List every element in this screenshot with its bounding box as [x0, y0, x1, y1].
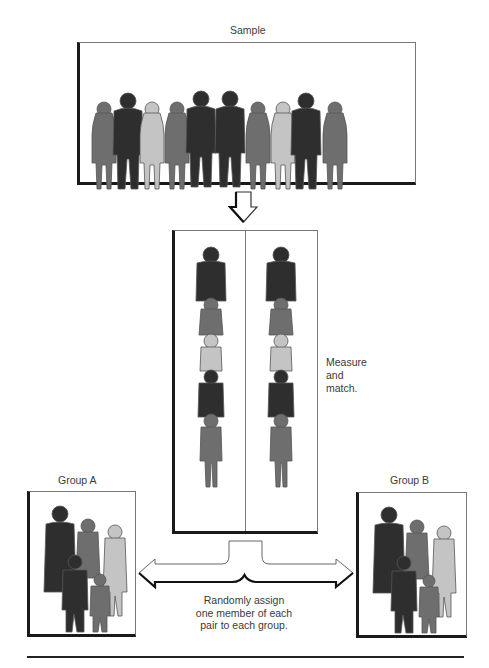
- random-assignment-caption: Randomly assign one member of each pair …: [164, 594, 324, 632]
- bottom-rule-divider: [27, 656, 464, 658]
- caption-line: one member of each: [164, 607, 324, 620]
- caption-line: pair to each group.: [164, 619, 324, 632]
- caption-line: Randomly assign: [164, 594, 324, 607]
- double-arrow-brace-icon: [0, 0, 489, 668]
